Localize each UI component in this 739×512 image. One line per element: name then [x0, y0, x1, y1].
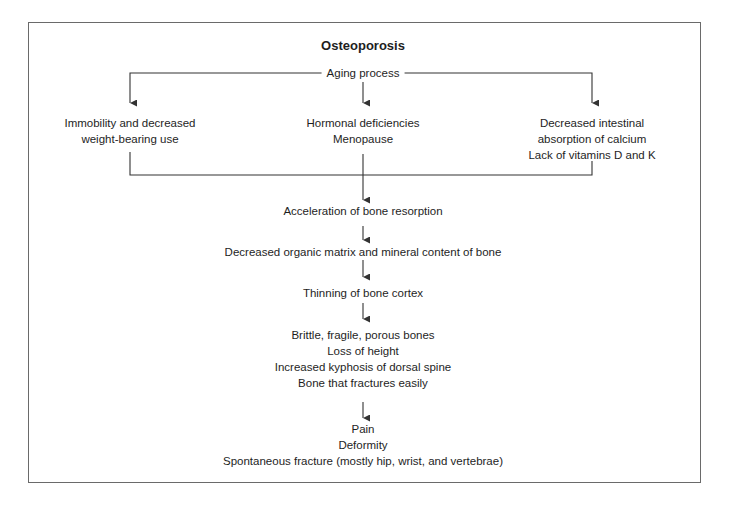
branch-right-connector [402, 73, 592, 103]
chain-line: Deformity [223, 437, 503, 453]
cause-node-calcium: Decreased intestinal absorption of calci… [528, 115, 655, 163]
cause-node-hormonal: Hormonal deficiencies Menopause [306, 115, 419, 147]
chain-line: Thinning of bone cortex [303, 285, 423, 301]
chain-line: Decreased organic matrix and mineral con… [225, 244, 502, 260]
chain-node-thinning-cortex: Thinning of bone cortex [303, 285, 423, 301]
chain-line: Bone that fractures easily [275, 375, 451, 391]
chain-line: Brittle, fragile, porous bones [275, 327, 451, 343]
cause-node-immobility: Immobility and decreased weight-bearing … [64, 115, 195, 147]
cause-line: Hormonal deficiencies [306, 115, 419, 131]
join-connector [130, 152, 592, 175]
cause-line: Decreased intestinal [528, 115, 655, 131]
chain-node-outcomes: Pain Deformity Spontaneous fracture (mos… [223, 421, 503, 469]
chain-line: Acceleration of bone resorption [283, 203, 442, 219]
cause-line: Immobility and decreased [64, 115, 195, 131]
cause-line: Lack of vitamins D and K [528, 147, 655, 163]
branch-left-connector [130, 73, 325, 103]
chain-line: Increased kyphosis of dorsal spine [275, 359, 451, 375]
root-node-aging-process: Aging process [322, 65, 405, 81]
chain-line: Spontaneous fracture (mostly hip, wrist,… [223, 453, 503, 469]
cause-line: Menopause [306, 131, 419, 147]
diagram-title: Osteoporosis [321, 38, 405, 54]
chain-node-brittle-bones: Brittle, fragile, porous bones Loss of h… [275, 327, 451, 391]
chain-node-bone-resorption: Acceleration of bone resorption [283, 203, 442, 219]
chain-line: Loss of height [275, 343, 451, 359]
cause-line: weight-bearing use [64, 131, 195, 147]
chain-node-decreased-matrix: Decreased organic matrix and mineral con… [225, 244, 502, 260]
cause-line: absorption of calcium [528, 131, 655, 147]
chain-line: Pain [223, 421, 503, 437]
